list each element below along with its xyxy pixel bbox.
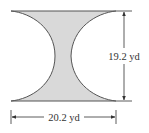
height-label: 19.2 yd	[108, 51, 140, 62]
hourglass-area-diagram: 19.2 yd 20.2 yd	[0, 0, 149, 133]
width-label: 20.2 yd	[48, 112, 80, 123]
shaded-region	[11, 11, 116, 101]
